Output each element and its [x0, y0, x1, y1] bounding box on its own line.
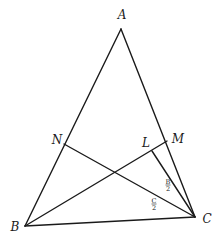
label-L: L — [141, 136, 150, 150]
label-N: N — [51, 133, 63, 147]
segment-NC — [64, 144, 195, 217]
angle-label-B-denominator: 2 — [166, 185, 170, 193]
label-A: A — [117, 8, 127, 22]
triangle-diagram: A B C N M L B 2 C 2 — [0, 0, 224, 241]
label-B: B — [10, 220, 20, 234]
segments — [25, 29, 195, 226]
angle-label-half-C: C 2 — [152, 197, 157, 212]
segment-BC — [25, 217, 195, 226]
angle-label-C-denominator: 2 — [152, 204, 156, 212]
segment-AB — [25, 29, 121, 226]
vertex-labels: A B C N M L — [10, 8, 212, 234]
segment-AC — [121, 29, 195, 217]
label-M: M — [171, 132, 185, 146]
label-C: C — [202, 212, 211, 226]
angle-label-half-B: B 2 — [166, 178, 171, 193]
